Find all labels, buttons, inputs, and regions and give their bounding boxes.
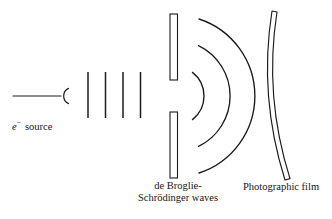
barrier-lower-bar — [170, 112, 178, 178]
de-broglie-waves-caption: de Broglie- Schrödinger waves — [132, 180, 224, 205]
waves-caption-line-1: de Broglie- — [132, 180, 224, 192]
barrier-upper-bar — [170, 14, 178, 80]
photographic-film-caption: Photographic film — [243, 181, 319, 193]
source-label: e−source — [12, 119, 52, 133]
source-label-superscript: − — [17, 118, 21, 127]
waves-caption-line-2: Schrödinger waves — [132, 192, 224, 204]
source-label-word: source — [25, 121, 52, 132]
diffraction-figure: e−source de Broglie- Schrödinger waves P… — [0, 0, 332, 219]
